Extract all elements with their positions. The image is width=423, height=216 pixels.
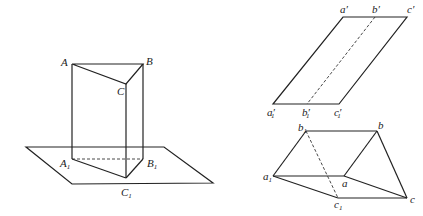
label-C: C [117, 85, 125, 97]
parallelogram [273, 17, 407, 104]
oblique-prism-figure: b1 b a1 a c1 c [263, 119, 415, 212]
label-B: B [146, 55, 153, 67]
label-A1: A1 [59, 157, 70, 171]
label-C1: C1 [121, 186, 132, 200]
edge-bc [377, 131, 407, 198]
label-a-prime: a′ [340, 3, 349, 15]
label-c1-prime: c′1 [334, 106, 342, 120]
label-c: c [410, 193, 415, 205]
edge-A1C1 [72, 159, 126, 178]
label-c1: c1 [334, 198, 342, 212]
edge-ac [344, 176, 407, 198]
label-B1: B1 [147, 157, 157, 171]
label-b1: b1 [298, 121, 307, 135]
label-b: b [378, 119, 384, 131]
base-plane [26, 147, 213, 184]
label-a: a [342, 177, 348, 189]
diagram-canvas: A B C A1 B1 C1 a′ b′ c′ a′1 b′1 c′1 b1 b… [0, 0, 423, 216]
edge-ba [344, 131, 377, 176]
parallelogram-figure: a′ b′ c′ a′1 b′1 c′1 [267, 3, 415, 120]
hidden-edge-b1c1 [306, 131, 338, 198]
geometry-figures: A B C A1 B1 C1 a′ b′ c′ a′1 b′1 c′1 b1 b… [0, 0, 423, 216]
edge-B1C1 [126, 159, 143, 178]
label-b-prime: b′ [372, 3, 381, 15]
label-A: A [60, 56, 68, 68]
edge-a1c1 [273, 176, 338, 198]
prism-figure: A B C A1 B1 C1 [26, 55, 213, 200]
label-c-prime: c′ [407, 3, 415, 15]
top-face [72, 64, 143, 84]
label-a1: a1 [263, 170, 272, 184]
hidden-edge-bb1 [307, 17, 375, 104]
edge-b1a1 [273, 131, 306, 176]
label-b1-prime: b′1 [302, 106, 311, 120]
label-a1-prime: a′1 [267, 106, 276, 120]
